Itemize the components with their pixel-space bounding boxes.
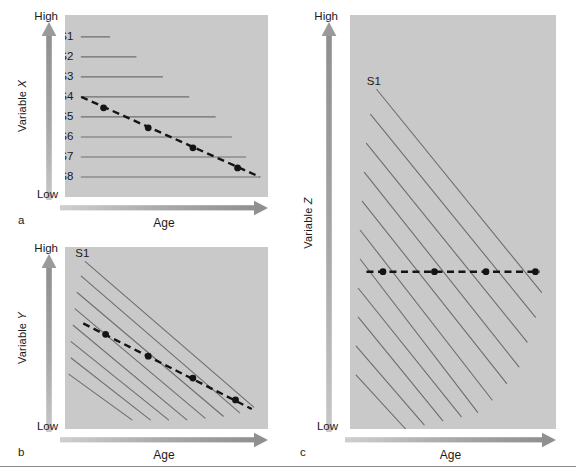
trend-marker-4 <box>232 396 239 403</box>
series-label-S1: S1 <box>75 247 89 259</box>
cohort-line-S9 <box>358 317 442 421</box>
cohort-line-S1 <box>377 90 542 293</box>
series-label-S4: S4 <box>65 90 73 102</box>
panel-c-y-tick-high: High <box>280 10 338 22</box>
series-label-S6: S6 <box>65 130 73 142</box>
panel-b-y-tick-high: High <box>0 242 58 254</box>
panel-b-y-axis-arrow <box>41 254 57 432</box>
panel-c-x-axis-arrow <box>345 432 556 448</box>
cohort-line-S6 <box>71 342 168 420</box>
series-label-S8: S8 <box>65 170 73 182</box>
panel-a: High Low Variable X S1S2S3S4S5S6S7S8 <box>0 0 288 232</box>
trend-marker-3 <box>189 144 196 151</box>
panel-c-y-axis-arrow <box>321 22 337 432</box>
series-label-S5: S5 <box>65 110 73 122</box>
trend-marker-3 <box>483 268 490 275</box>
panel-a-letter: a <box>18 214 24 226</box>
trend-marker-1 <box>102 331 109 338</box>
trend-marker-1 <box>100 104 107 111</box>
panel-b-y-axis-label: Variable Y <box>16 288 28 388</box>
trend-marker-2 <box>145 124 152 131</box>
series-label-S1: S1 <box>65 30 73 42</box>
panel-c-y-axis-label: Variable Z <box>302 173 314 273</box>
panel-c-y-axis-label-var: Z <box>302 197 314 204</box>
cohort-line-S3 <box>366 143 527 342</box>
series-label-S3: S3 <box>65 70 73 82</box>
panel-b-plot-svg <box>65 247 268 429</box>
trend-marker-4 <box>532 268 539 275</box>
panel-b: High Low Variable Y S1 Age b <box>0 232 288 464</box>
panel-b-y-axis-label-prefix: Variable <box>16 320 28 364</box>
panel-a-y-axis-label-var: X <box>16 80 28 88</box>
panel-b-cohort-lines <box>69 262 254 420</box>
cohort-line-S4 <box>75 309 205 418</box>
panel-c-letter: c <box>300 446 306 458</box>
cohort-line-S1 <box>85 262 253 408</box>
trend-marker-1 <box>380 268 387 275</box>
panel-a-y-axis-label: Variable X <box>16 56 28 156</box>
panel-a-cohort-lines <box>81 37 260 177</box>
bottom-divider <box>0 466 576 467</box>
panel-c-y-axis-label-prefix: Variable <box>302 204 314 248</box>
panel-b-trend-group <box>83 323 251 409</box>
cohort-line-S7 <box>71 358 150 420</box>
panel-b-plot-area: S1 <box>65 247 268 429</box>
cohort-line-S7 <box>360 259 477 412</box>
panel-a-y-axis-arrow <box>41 22 57 200</box>
series-label-S7: S7 <box>65 150 73 162</box>
series-label-S1: S1 <box>367 75 381 87</box>
panel-a-x-axis-label: Age <box>60 216 268 230</box>
panel-c-trend-group <box>366 268 539 275</box>
trend-line <box>83 323 251 409</box>
panel-b-y-axis-label-var: Y <box>16 312 28 320</box>
panel-a-x-axis-arrow <box>60 200 268 216</box>
cohort-line-S2 <box>81 276 239 413</box>
cohort-line-S11 <box>356 375 405 429</box>
panel-a-plot-svg <box>65 15 268 197</box>
panel-a-y-tick-high: High <box>0 10 58 22</box>
trend-marker-2 <box>431 268 438 275</box>
panel-b-y-tick-low: Low <box>0 420 58 432</box>
panel-c-x-axis-label: Age <box>345 448 556 462</box>
panel-a-y-axis-label-prefix: Variable <box>16 88 28 132</box>
trend-marker-4 <box>234 164 241 171</box>
cohort-line-S2 <box>371 114 536 317</box>
panel-a-plot-area: S1S2S3S4S5S6S7S8 <box>65 15 268 197</box>
trend-marker-2 <box>145 353 152 360</box>
figure-root: High Low Variable X S1S2S3S4S5S6S7S8 <box>0 0 576 475</box>
panel-c-plot-area: S1 <box>350 15 556 429</box>
panel-c-y-tick-low: Low <box>280 420 338 432</box>
panel-a-y-tick-low: Low <box>0 188 58 200</box>
panel-b-x-axis-arrow <box>60 432 268 448</box>
panel-b-x-axis-label: Age <box>60 448 268 462</box>
panel-c-plot-svg <box>350 15 556 429</box>
panel-c: High Low Variable Z S1 Age c <box>288 0 576 464</box>
panel-c-cohort-lines <box>356 90 541 429</box>
trend-marker-3 <box>189 375 196 382</box>
series-label-S2: S2 <box>65 50 73 62</box>
panel-b-letter: b <box>18 446 24 458</box>
